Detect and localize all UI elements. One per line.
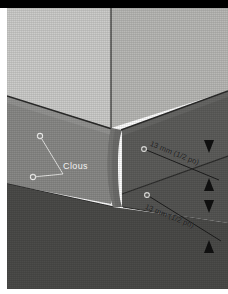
label-clous: Clous xyxy=(63,161,88,171)
page-margin-left xyxy=(0,8,7,294)
nail-marker-left-upper xyxy=(37,133,42,138)
page-margin-bottom xyxy=(0,289,228,294)
nail-marker-right-upper xyxy=(142,147,147,152)
nail-marker-left-lower xyxy=(30,174,35,179)
nail-marker-right-lower xyxy=(145,193,150,198)
figure-root: Clous 13 mm (1/2 po) 13 mm (1/2 po) xyxy=(0,0,228,294)
illustration-canvas xyxy=(7,8,228,289)
top-black-banner xyxy=(0,0,228,8)
